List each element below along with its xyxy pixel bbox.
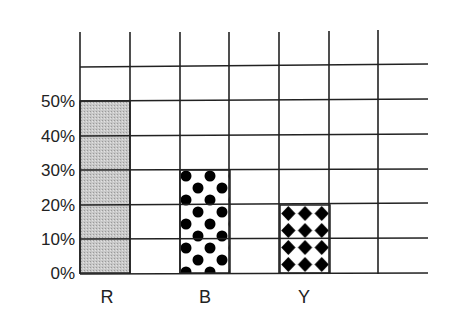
x-category-label: R	[82, 287, 132, 308]
y-tick-label: 20%	[41, 197, 75, 214]
x-category-label: B	[180, 287, 230, 308]
y-tick-label: 30%	[41, 162, 75, 179]
bars	[80, 101, 330, 273]
bar-r	[80, 101, 130, 273]
bar-b	[180, 170, 230, 273]
grid	[80, 30, 428, 274]
y-tick-label: 40%	[41, 128, 75, 145]
y-tick-label: 50%	[41, 93, 75, 110]
y-tick-label: 10%	[41, 231, 75, 248]
y-tick-label: 0%	[50, 265, 75, 282]
x-category-label: Y	[279, 287, 329, 308]
